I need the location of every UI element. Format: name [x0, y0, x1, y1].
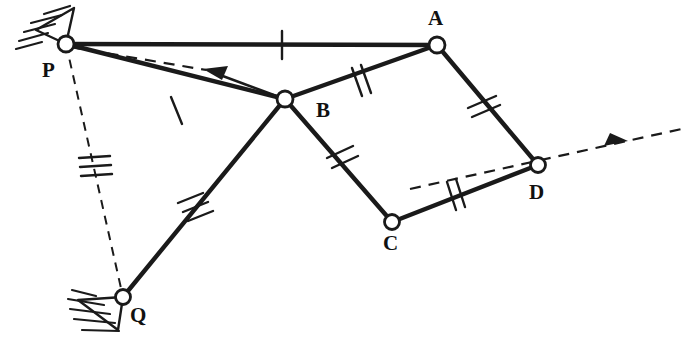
joint-label-q: Q [130, 305, 147, 326]
kinematic-linkage-figure: P A B C D Q [0, 0, 686, 346]
joint-label-p: P [42, 60, 55, 81]
joint-label-c: C [383, 233, 399, 254]
link-length-tick-marks [79, 31, 500, 221]
ticks-link-pb [171, 97, 182, 124]
link-qb [123, 99, 285, 297]
joint-d [531, 158, 546, 173]
link-bc [285, 99, 392, 222]
joint-p [58, 36, 74, 52]
link-pa [66, 44, 437, 45]
ticks-link-qb [178, 193, 213, 221]
link-cd [392, 165, 538, 222]
joint-q [116, 290, 131, 305]
joint-c [385, 215, 400, 230]
joint-label-d: D [529, 182, 545, 203]
joint-label-a: A [428, 8, 444, 29]
velocity-vector-d-dashed-line [410, 128, 686, 189]
link-ad [437, 45, 538, 165]
ground-line-pq [66, 44, 123, 297]
linkage-drawing-canvas [0, 0, 686, 346]
linkage-bars [66, 44, 538, 297]
joint-markers [58, 36, 546, 305]
joint-label-b: B [316, 100, 331, 121]
joint-a [429, 37, 445, 53]
velocity-vector-d [410, 128, 686, 189]
joint-b [277, 91, 293, 107]
link-pb [66, 44, 285, 99]
